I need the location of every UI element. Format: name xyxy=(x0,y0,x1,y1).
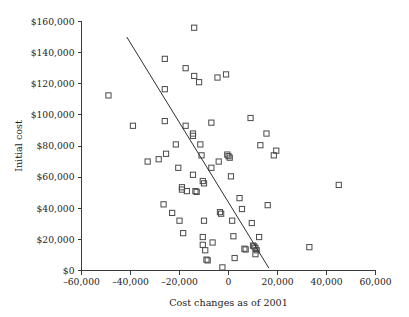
y-tick-label: $140,000 xyxy=(31,47,75,58)
y-tick-label: $40,000 xyxy=(37,203,75,214)
x-axis-title: Cost changes as of 2001 xyxy=(169,297,288,308)
y-tick-label: $20,000 xyxy=(37,234,75,245)
x-axis-tick-labels: –60,000–40,000–20,000020,00040,00060,000 xyxy=(63,276,392,287)
scatter-plot-figure: $0$20,000$40,000$60,000$80,000$100,000$1… xyxy=(0,0,409,317)
x-tick-label: 0 xyxy=(226,276,232,287)
y-tick-label: $60,000 xyxy=(37,171,75,182)
x-tick-label: 20,000 xyxy=(261,276,293,287)
y-axis-title: Initial cost xyxy=(13,120,24,172)
x-tick-label: 60,000 xyxy=(359,276,391,287)
x-tick-label: –60,000 xyxy=(63,276,100,287)
y-axis-tick-labels: $0$20,000$40,000$60,000$80,000$100,000$1… xyxy=(31,16,75,276)
chart-canvas: $0$20,000$40,000$60,000$80,000$100,000$1… xyxy=(0,0,409,317)
x-tick-label: –20,000 xyxy=(161,276,198,287)
y-tick-label: $100,000 xyxy=(31,109,75,120)
x-tick-label: –40,000 xyxy=(112,276,149,287)
y-tick-label: $120,000 xyxy=(31,78,75,89)
y-tick-label: $80,000 xyxy=(37,140,75,151)
y-tick-label: $160,000 xyxy=(31,16,75,27)
y-tick-label: $0 xyxy=(63,265,75,276)
x-tick-label: 40,000 xyxy=(310,276,342,287)
